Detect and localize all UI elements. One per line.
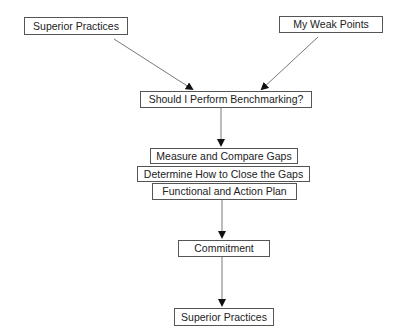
arrow-weakpoints-to-should	[262, 37, 318, 89]
node-label: Superior Practices	[181, 312, 267, 323]
node-label: My Weak Points	[293, 19, 369, 30]
node-measure-compare-gaps: Measure and Compare Gaps	[150, 148, 298, 164]
node-should-perform-benchmarking: Should I Perform Benchmarking?	[140, 91, 312, 108]
node-functional-action-plan: Functional and Action Plan	[152, 183, 297, 200]
node-superior-practices-bottom: Superior Practices	[174, 308, 274, 326]
node-my-weak-points: My Weak Points	[279, 16, 383, 33]
node-commitment: Commitment	[178, 240, 270, 257]
arrow-superior-to-should	[114, 39, 192, 89]
node-superior-practices-top: Superior Practices	[24, 17, 128, 35]
node-label: Commitment	[194, 243, 254, 254]
node-label: Superior Practices	[33, 21, 119, 32]
node-label: Functional and Action Plan	[162, 186, 286, 197]
node-label: Should I Perform Benchmarking?	[149, 94, 304, 105]
node-label: Determine How to Close the Gaps	[144, 169, 303, 180]
node-label: Measure and Compare Gaps	[156, 151, 291, 162]
node-determine-close-gaps: Determine How to Close the Gaps	[137, 166, 310, 182]
